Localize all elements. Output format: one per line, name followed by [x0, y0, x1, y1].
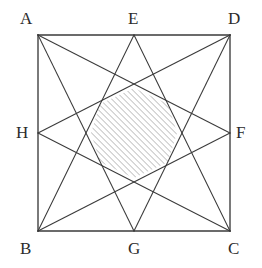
- shaded-central-octagon: [91, 88, 177, 178]
- vertex-label-h: H: [16, 124, 28, 141]
- vertex-label-e: E: [128, 10, 138, 27]
- vertex-label-d: D: [228, 10, 240, 27]
- vertex-label-g: G: [128, 240, 140, 257]
- vertex-label-f: F: [236, 124, 245, 141]
- vertex-label-a: A: [20, 10, 32, 27]
- vertex-label-c: C: [228, 240, 239, 257]
- geometry-figure: ADBCEFGH: [0, 0, 262, 268]
- geometry-canvas: [0, 0, 262, 268]
- vertex-label-b: B: [20, 240, 31, 257]
